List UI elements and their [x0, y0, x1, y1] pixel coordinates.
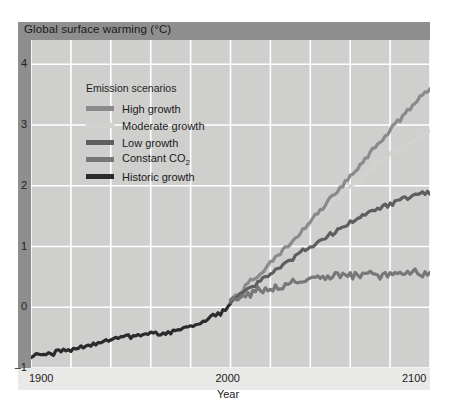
legend-items: High growthModerate growthLow growthCons…	[86, 101, 205, 184]
legend-item[interactable]: High growth	[86, 101, 205, 116]
legend-item-label: High growth	[122, 103, 181, 115]
legend-item-label: Low growth	[122, 137, 178, 149]
x-axis-tick-label: 2000	[216, 372, 240, 384]
left-color-band	[18, 22, 31, 368]
y-axis-tick-label: 1	[9, 240, 27, 252]
y-axis-tick-label: 3	[9, 118, 27, 130]
legend-item[interactable]: Low growth	[86, 135, 205, 150]
y-axis-tick-label: 0	[9, 300, 27, 312]
legend-item-label: Constant CO2	[122, 152, 190, 167]
legend-item[interactable]: Constant CO2	[86, 152, 205, 167]
series-line	[31, 304, 231, 358]
legend-item-label: Historic growth	[122, 171, 195, 183]
page-title: Global surface warming (°C)	[24, 23, 171, 35]
legend-item[interactable]: Historic growth	[86, 169, 205, 184]
legend-swatch	[86, 174, 114, 179]
legend: Emission scenarios High growthModerate g…	[86, 82, 205, 186]
legend-item[interactable]: Moderate growth	[86, 118, 205, 133]
y-axis-tick-label: 2	[9, 179, 27, 191]
legend-swatch	[86, 140, 114, 145]
legend-swatch	[86, 157, 114, 162]
y-axis-tick-label: 4	[9, 57, 27, 69]
legend-swatch	[86, 106, 114, 111]
series-line	[231, 89, 431, 300]
figure-container: Global surface warming (°C) 43210–1 1900…	[0, 0, 456, 413]
legend-title: Emission scenarios	[86, 82, 205, 94]
legend-swatch	[86, 123, 114, 128]
x-axis-tick-label: 2100	[402, 372, 426, 384]
x-axis-tick-label: 1900	[29, 372, 53, 384]
x-axis-label: Year	[0, 388, 456, 400]
y-axis-tick-label: –1	[9, 361, 27, 373]
legend-item-label: Moderate growth	[122, 120, 205, 132]
